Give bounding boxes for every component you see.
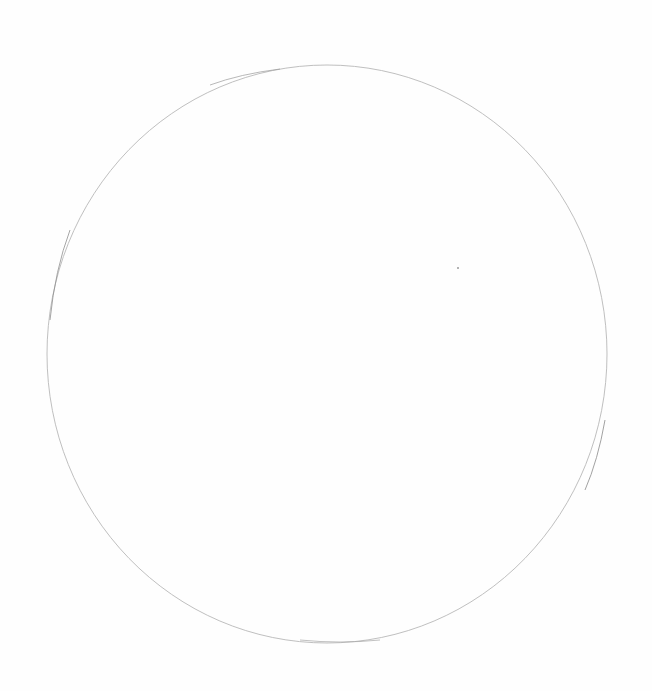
graphite-speck bbox=[457, 267, 459, 269]
hand-drawn-circle bbox=[47, 65, 607, 643]
circle-dark-segment-left bbox=[50, 230, 70, 320]
pencil-drawing bbox=[0, 0, 652, 691]
circle-dark-segment-right bbox=[585, 420, 605, 490]
paper-canvas bbox=[0, 0, 652, 691]
